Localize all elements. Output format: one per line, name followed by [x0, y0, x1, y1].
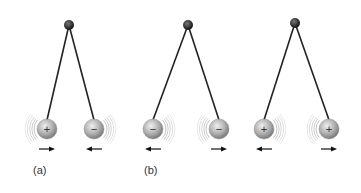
string	[47, 25, 69, 120]
string	[153, 25, 188, 120]
string	[69, 25, 94, 120]
arrow-right-icon	[331, 147, 337, 152]
arrow-right-icon	[49, 147, 55, 152]
pivot-icon	[290, 18, 300, 28]
minus-charge-icon: −	[150, 123, 156, 135]
pivot-icon	[183, 20, 193, 30]
minus-charge-icon: −	[91, 123, 97, 135]
arrow-left-icon	[86, 147, 92, 152]
string	[264, 23, 295, 120]
plus-charge-icon: +	[261, 123, 267, 135]
minus-charge-icon: −	[216, 123, 222, 135]
pendulum-diagram: +−−−++	[0, 0, 361, 193]
plus-charge-icon: +	[44, 123, 50, 135]
pivot-icon	[64, 20, 74, 30]
arrow-right-icon	[221, 147, 227, 152]
string	[188, 25, 219, 120]
string	[295, 23, 329, 120]
plus-charge-icon: +	[326, 123, 332, 135]
arrow-left-icon	[145, 147, 151, 152]
panel-label-a: (a)	[33, 164, 46, 176]
panel-label-b: (b)	[144, 164, 157, 176]
arrow-left-icon	[256, 147, 262, 152]
